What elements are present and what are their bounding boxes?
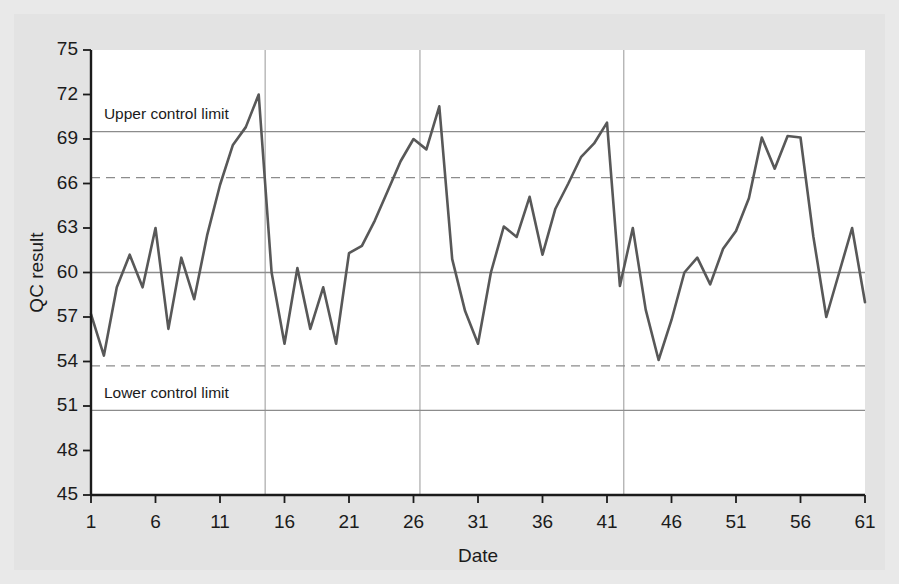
y-tick-label-69: 69 bbox=[57, 127, 78, 148]
y-tick-label-45: 45 bbox=[57, 483, 78, 504]
x-tick-label-51: 51 bbox=[725, 511, 746, 532]
y-axis-title: QC result bbox=[26, 232, 47, 313]
qc-control-chart: Upper control limitLower control limit45… bbox=[14, 14, 885, 570]
y-tick-label-57: 57 bbox=[57, 305, 78, 326]
x-tick-label-46: 46 bbox=[661, 511, 682, 532]
y-tick-label-54: 54 bbox=[57, 350, 79, 371]
label-lower-control-limit: Lower control limit bbox=[104, 384, 230, 401]
x-tick-label-26: 26 bbox=[403, 511, 424, 532]
x-tick-label-11: 11 bbox=[210, 511, 230, 532]
y-tick-label-63: 63 bbox=[57, 216, 78, 237]
x-tick-label-31: 31 bbox=[467, 511, 488, 532]
y-tick-label-66: 66 bbox=[57, 172, 78, 193]
x-tick-label-61: 61 bbox=[854, 511, 875, 532]
y-tick-label-75: 75 bbox=[57, 38, 78, 59]
x-axis-title: Date bbox=[458, 545, 498, 566]
x-tick-label-16: 16 bbox=[274, 511, 295, 532]
x-tick-label-36: 36 bbox=[532, 511, 553, 532]
x-tick-label-6: 6 bbox=[150, 511, 161, 532]
plot-frame: Upper control limitLower control limit45… bbox=[14, 14, 885, 570]
y-tick-label-48: 48 bbox=[57, 439, 78, 460]
y-tick-label-60: 60 bbox=[57, 261, 78, 282]
y-tick-label-51: 51 bbox=[57, 394, 78, 415]
x-tick-label-41: 41 bbox=[596, 511, 617, 532]
chart-figure: Upper control limitLower control limit45… bbox=[0, 0, 899, 584]
x-tick-label-21: 21 bbox=[338, 511, 359, 532]
x-tick-label-1: 1 bbox=[86, 511, 97, 532]
x-tick-label-56: 56 bbox=[790, 511, 811, 532]
label-upper-control-limit: Upper control limit bbox=[104, 105, 230, 122]
y-tick-label-72: 72 bbox=[57, 83, 78, 104]
